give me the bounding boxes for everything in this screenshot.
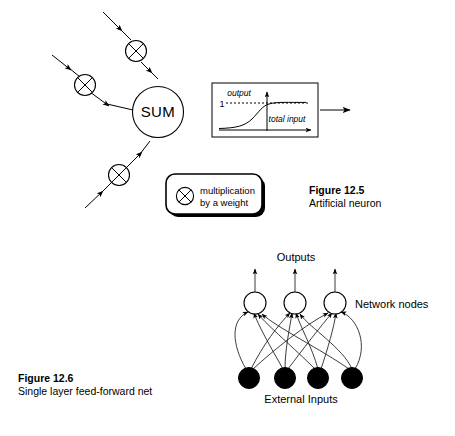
figure-12-5-caption-number: Figure 12.5	[309, 184, 365, 196]
outputs-label: Outputs	[277, 251, 316, 263]
input-branch-3	[85, 141, 150, 208]
figure-12-6-caption-number: Figure 12.6	[18, 372, 74, 384]
input-branch-2	[52, 55, 133, 110]
transfer-plot-x-axis-label: total input	[269, 114, 306, 124]
figure-12-6-caption-title: Single layer feed-forward net	[18, 385, 152, 397]
connection-arc	[235, 312, 248, 369]
external-input-node	[239, 368, 260, 389]
weight-legend-box: multiplication by a weight	[166, 174, 265, 217]
external-input-node	[342, 368, 363, 389]
external-inputs-label: External Inputs	[264, 393, 338, 405]
network-node	[324, 292, 346, 314]
network-connections	[235, 312, 361, 369]
weight-node-3	[109, 165, 130, 186]
transfer-plot-y-tick-label: 1	[219, 99, 224, 109]
external-input-node	[308, 368, 329, 389]
connection-arc	[251, 313, 290, 369]
connection-arc	[288, 313, 332, 369]
transfer-function-plot: output 1 total input	[212, 83, 318, 137]
sum-node-label: SUM	[141, 103, 176, 120]
connection-arc	[262, 314, 349, 369]
connection-arc	[254, 313, 283, 369]
figure-12-5-caption-title: Artificial neuron	[309, 197, 382, 209]
figure-sheet: SUM output 1 total input	[0, 0, 455, 436]
figure-12-5-artificial-neuron: SUM output 1 total input	[52, 12, 382, 217]
weight-node-2	[75, 75, 96, 96]
network-node	[244, 292, 266, 314]
figure-12-6-caption: Figure 12.6 Single layer feed-forward ne…	[18, 372, 152, 397]
connection-arc	[341, 312, 361, 369]
network-nodes-label: Network nodes	[355, 298, 429, 310]
network-nodes	[244, 292, 346, 314]
weight-legend-icon	[176, 187, 193, 204]
figure-12-6-feed-forward-net: Outputs Network nodes External Inputs Fi…	[18, 251, 429, 405]
figure-12-5-caption: Figure 12.5 Artificial neuron	[309, 184, 382, 209]
input-branch-1	[103, 12, 158, 79]
external-input-node	[275, 368, 296, 389]
sum-node: SUM	[133, 87, 184, 138]
external-input-nodes	[239, 368, 363, 389]
network-node	[284, 292, 306, 314]
weight-node-1	[126, 41, 147, 62]
figures-canvas: SUM output 1 total input	[0, 0, 455, 436]
weight-legend-line-2: by a weight	[200, 197, 248, 208]
network-output-arrows	[255, 269, 335, 292]
transfer-plot-y-axis-label: output	[227, 88, 251, 98]
weight-legend-line-1: multiplication	[200, 185, 255, 196]
